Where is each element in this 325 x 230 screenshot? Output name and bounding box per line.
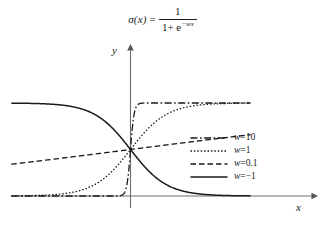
legend-label: w=10 — [228, 133, 255, 143]
legend-item: w=10 — [190, 131, 300, 144]
legend-item: w=−1 — [190, 170, 300, 183]
legend-line-swatch — [190, 172, 228, 182]
legend: w=10w=1w=0.1w=−1 — [190, 131, 300, 183]
legend-line-swatch — [190, 146, 228, 156]
x-axis-label: x — [296, 202, 301, 213]
legend-label: w=0.1 — [228, 159, 258, 169]
legend-line-swatch — [190, 159, 228, 169]
y-axis-label: y — [112, 45, 117, 56]
legend-label: w=−1 — [228, 172, 256, 182]
legend-item: w=0.1 — [190, 157, 300, 170]
sigmoid-figure: σ(x) = 1 1+ e−wx — [0, 0, 325, 230]
legend-line-swatch — [190, 133, 228, 143]
legend-label: w=1 — [228, 146, 250, 156]
legend-item: w=1 — [190, 144, 300, 157]
plot-area — [0, 0, 325, 230]
